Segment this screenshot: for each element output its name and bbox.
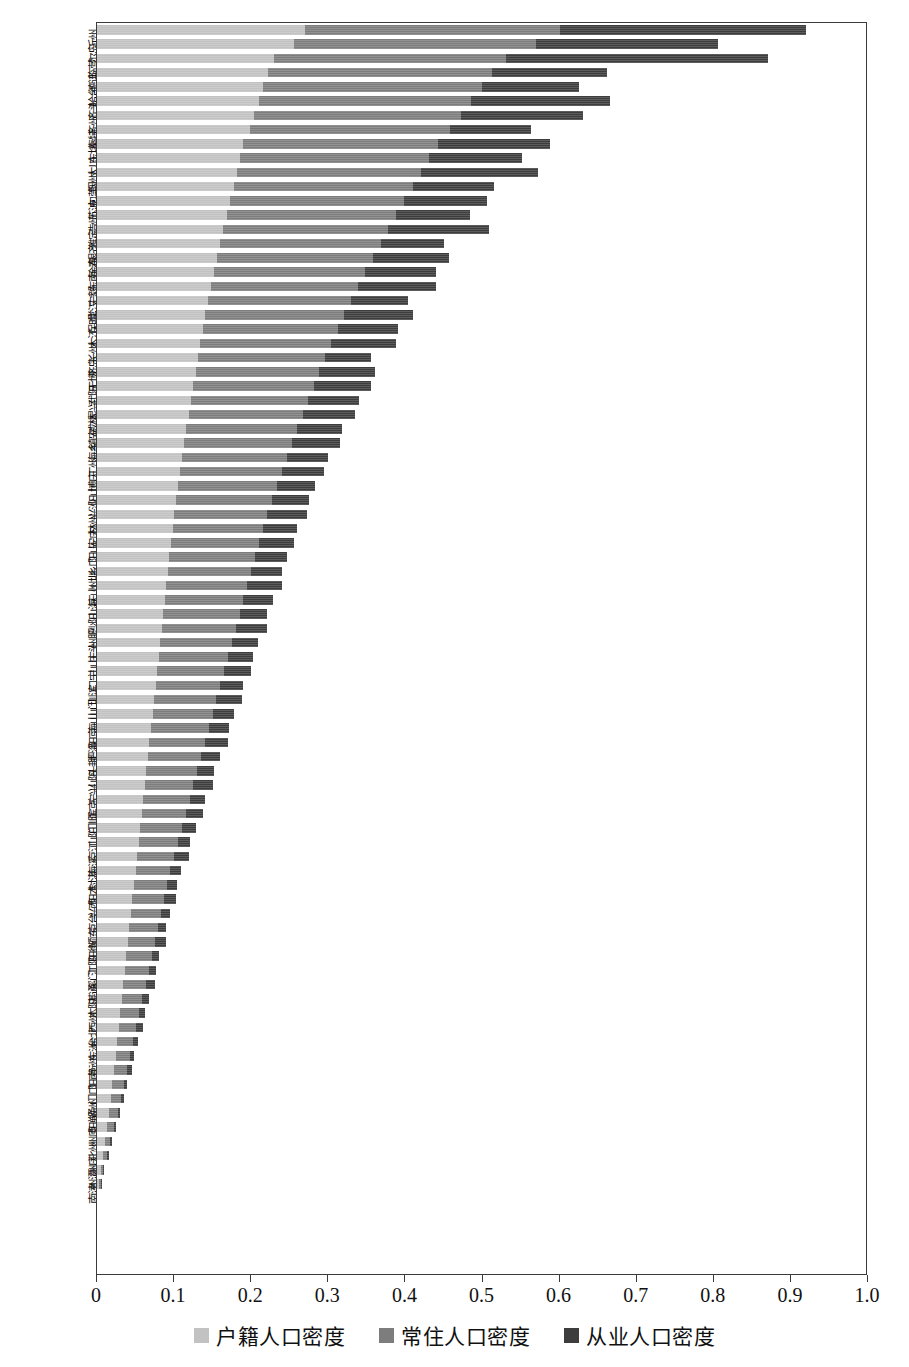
legend-label: 常住人口密度 <box>401 1320 530 1350</box>
bar-row <box>97 410 355 420</box>
legend-item-1[interactable]: 户籍人口密度 <box>194 1320 345 1350</box>
bar-segment-c <box>421 168 538 178</box>
bar-row <box>97 852 189 862</box>
bar-segment-c <box>396 210 470 220</box>
bar-segment-b <box>136 866 171 876</box>
bar-segment-a <box>97 282 211 292</box>
bar-row <box>97 567 282 577</box>
bar-segment-b <box>217 253 373 263</box>
bar-segment-c <box>461 111 583 121</box>
bar-row <box>97 367 375 377</box>
bar-segment-a <box>97 495 176 505</box>
bar-segment-a <box>97 367 196 377</box>
bar-row <box>97 723 229 733</box>
bar-segment-b <box>154 695 216 705</box>
bar-row <box>97 1008 145 1018</box>
bar-segment-a <box>97 210 227 220</box>
bar-segment-a <box>97 396 191 406</box>
x-axis-tick-label: 0 <box>91 1284 101 1307</box>
bar-segment-a <box>97 738 149 748</box>
bar-segment-a <box>97 467 180 477</box>
bar-row <box>97 1179 102 1189</box>
legend-item-2[interactable]: 常住人口密度 <box>379 1320 530 1350</box>
bar-segment-b <box>214 267 365 277</box>
bar-segment-a <box>97 153 240 163</box>
x-axis-tick-label: 0.9 <box>777 1284 802 1307</box>
bar-segment-b <box>157 666 224 676</box>
bar-segment-a <box>97 880 134 890</box>
bar-segment-c <box>124 1080 127 1090</box>
bar-row <box>97 1094 124 1104</box>
bar-segment-c <box>506 54 768 64</box>
bar-segment-b <box>178 481 277 491</box>
bar-segment-b <box>125 966 149 976</box>
bar-segment-a <box>97 723 151 733</box>
bar-segment-a <box>97 638 160 648</box>
bar-segment-b <box>208 296 351 306</box>
bar-segment-c <box>209 723 229 733</box>
bar-row <box>97 1122 116 1132</box>
bar-segment-b <box>196 367 319 377</box>
bar-segment-b <box>134 880 167 890</box>
bar-segment-c <box>338 324 398 334</box>
bar-row <box>97 381 371 391</box>
bar-segment-a <box>97 937 128 947</box>
x-axis-tick-label: 0.2 <box>238 1284 263 1307</box>
bar-segment-b <box>120 1008 139 1018</box>
bar-row <box>97 595 273 605</box>
bar-row <box>97 196 487 206</box>
bar-row <box>97 39 718 49</box>
x-axis-tick <box>559 1275 560 1282</box>
bar-segment-a <box>97 909 131 919</box>
bar-segment-c <box>560 25 807 35</box>
bar-segment-b <box>166 581 247 591</box>
bar-segment-a <box>97 866 136 876</box>
bar-segment-b <box>186 424 297 434</box>
bar-row <box>97 68 607 78</box>
bar-segment-b <box>200 339 331 349</box>
bar-segment-b <box>162 624 236 634</box>
bar-segment-b <box>143 795 189 805</box>
bar-segment-c <box>438 139 550 149</box>
bar-segment-a <box>97 538 171 548</box>
bar-segment-a <box>97 339 200 349</box>
bar-segment-a <box>97 837 139 847</box>
bar-row <box>97 168 538 178</box>
bar-row <box>97 1137 112 1147</box>
x-axis-tick <box>867 1275 868 1282</box>
legend-item-3[interactable]: 从业人口密度 <box>564 1320 715 1350</box>
bar-row <box>97 624 267 634</box>
bar-segment-b <box>211 282 357 292</box>
bar-row <box>97 267 436 277</box>
bar-row <box>97 752 220 762</box>
bar-segment-c <box>331 339 396 349</box>
bar-segment-a <box>97 752 148 762</box>
bar-segment-a <box>97 552 169 562</box>
bar-segment-c <box>381 239 444 249</box>
bar-row <box>97 481 315 491</box>
bar-segment-c <box>121 1094 124 1104</box>
bar-segment-b <box>205 310 344 320</box>
x-axis-tick-label: 1.0 <box>855 1284 880 1307</box>
bar-segment-c <box>236 624 267 634</box>
bar-segment-b <box>171 538 259 548</box>
bar-segment-a <box>97 681 156 691</box>
x-axis-tick <box>404 1275 405 1282</box>
bar-segment-b <box>153 709 213 719</box>
bar-segment-c <box>118 1108 120 1118</box>
bar-segment-a <box>97 1137 105 1147</box>
bar-segment-b <box>151 723 209 733</box>
bar-segment-b <box>116 1051 131 1061</box>
bar-segment-a <box>97 125 250 135</box>
bar-segment-a <box>97 510 174 520</box>
stacked-bar-chart-figure: 沂州尔岛临营德连哈台齐头齐州秦特东坊大川烟州包莞苏波浩州潍定银齐徐春东南宁毅常汉… <box>0 0 909 1367</box>
bar-segment-a <box>97 795 143 805</box>
bar-segment-c <box>450 125 531 135</box>
bar-segment-c <box>277 481 316 491</box>
x-axis-tick-label: 0.3 <box>315 1284 340 1307</box>
bar-segment-b <box>142 809 186 819</box>
bar-segment-a <box>97 609 163 619</box>
bar-segment-c <box>429 153 522 163</box>
bar-segment-c <box>224 666 251 676</box>
bar-segment-a <box>97 296 208 306</box>
